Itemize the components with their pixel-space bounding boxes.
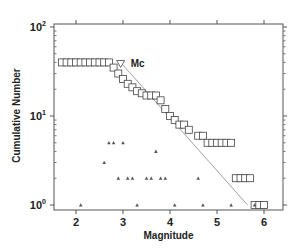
axis-ticks: 23456100101102: [30, 20, 287, 228]
svg-text:6: 6: [261, 216, 267, 228]
noncumulative-series: [79, 141, 257, 207]
svg-text:102: 102: [30, 20, 46, 33]
svg-text:100: 100: [30, 198, 46, 211]
svg-text:5: 5: [214, 216, 220, 228]
x-axis-label: Magnitude: [54, 230, 283, 241]
svg-text:3: 3: [120, 216, 126, 228]
cumulative-series: [58, 59, 267, 209]
svg-text:2: 2: [73, 216, 79, 228]
fit-line: [121, 62, 248, 205]
mc-annotation: Mc: [117, 58, 145, 69]
svg-text:Mc: Mc: [131, 58, 145, 69]
svg-text:101: 101: [30, 109, 46, 122]
gr-plot: 23456100101102 Mc: [0, 0, 302, 252]
svg-text:4: 4: [167, 216, 174, 228]
y-axis-label: Cumulative Number: [11, 56, 22, 176]
